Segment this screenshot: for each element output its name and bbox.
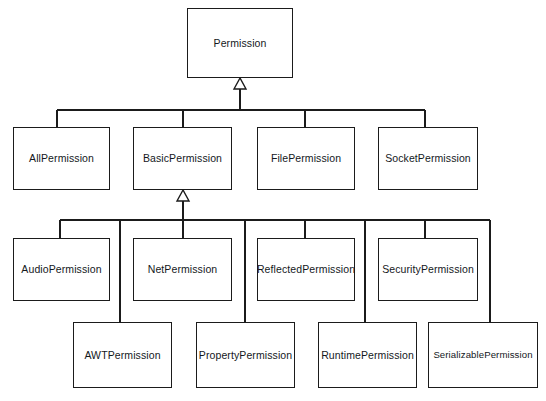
generalization-arrowhead-basic-permission-icon (177, 190, 189, 201)
class-box-all-permission[interactable]: AllPermission (13, 127, 110, 190)
class-box-file-permission[interactable]: FilePermission (257, 127, 355, 190)
class-box-awt-permission[interactable]: AWTPermission (73, 322, 172, 388)
class-box-permission[interactable]: Permission (187, 8, 293, 78)
class-name-label: AWTPermission (81, 349, 163, 361)
class-name-label: PropertyPermission (196, 349, 295, 361)
class-name-label: ReflectedPermission (254, 263, 358, 275)
class-box-audio-permission[interactable]: AudioPermission (13, 238, 110, 301)
class-name-label: SerializablePermission (430, 349, 535, 360)
class-name-label: SocketPermission (382, 152, 474, 164)
class-box-reflected-permission[interactable]: ReflectedPermission (257, 238, 355, 301)
class-name-label: AudioPermission (18, 263, 104, 275)
class-name-label: Permission (211, 37, 270, 49)
class-name-label: FilePermission (268, 152, 344, 164)
class-name-label: AllPermission (26, 152, 97, 164)
class-name-label: BasicPermission (140, 152, 225, 164)
generalization-arrowhead-permission-icon (234, 78, 246, 89)
class-box-runtime-permission[interactable]: RuntimePermission (318, 322, 417, 388)
class-box-serializable-permission[interactable]: SerializablePermission (428, 322, 538, 388)
class-box-property-permission[interactable]: PropertyPermission (196, 322, 295, 388)
class-name-label: SecurityPermission (379, 263, 477, 275)
class-box-socket-permission[interactable]: SocketPermission (378, 127, 478, 190)
class-name-label: RuntimePermission (318, 349, 417, 361)
class-name-label: NetPermission (145, 263, 221, 275)
class-box-net-permission[interactable]: NetPermission (133, 238, 232, 301)
class-box-basic-permission[interactable]: BasicPermission (133, 127, 232, 190)
uml-class-diagram: PermissionAllPermissionBasicPermissionFi… (0, 0, 546, 401)
class-box-security-permission[interactable]: SecurityPermission (378, 238, 478, 301)
